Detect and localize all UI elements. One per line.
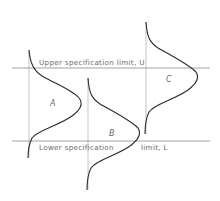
distribution-label-b: B: [109, 129, 115, 138]
upper-spec-label: Upper specification limit, U: [39, 58, 145, 67]
lower-spec-label: Lower specification: [39, 143, 114, 152]
distribution-label-a: A: [49, 99, 55, 108]
process-capability-diagram: Upper specification limit, U Lower speci…: [0, 0, 220, 201]
distribution-label-c: C: [166, 75, 172, 84]
lower-spec-label-2: limit, L: [141, 143, 168, 152]
diagram-svg: Upper specification limit, U Lower speci…: [0, 0, 220, 201]
